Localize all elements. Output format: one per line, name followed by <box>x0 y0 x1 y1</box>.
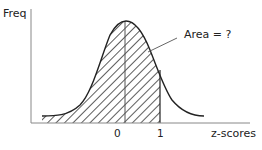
x-axis-label: z-scores <box>211 128 256 139</box>
y-axis-label: Freq <box>3 8 27 19</box>
x-tick-label-1: 1 <box>157 128 164 139</box>
x-tick-label-0: 0 <box>114 128 121 139</box>
annotation-leader-line <box>148 38 177 52</box>
area-annotation: Area = ? <box>184 29 231 40</box>
